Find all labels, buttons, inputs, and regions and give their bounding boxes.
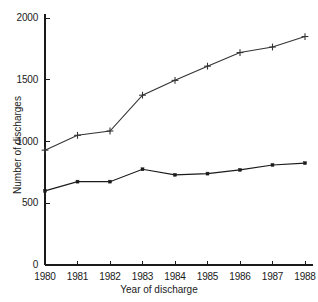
marker-plus <box>204 63 211 70</box>
data-series-lower-series <box>44 162 307 193</box>
marker-square <box>141 168 144 171</box>
series-line-upper-series <box>45 37 305 151</box>
marker-plus <box>302 33 309 40</box>
chart-figure: 0500100015002000 19801981198219831984198… <box>0 0 318 302</box>
y-axis-title: Number of discharges <box>13 80 23 210</box>
x-tick-label: 1983 <box>126 272 160 282</box>
y-tick-label: 2000 <box>2 13 38 23</box>
marker-square <box>76 180 79 183</box>
marker-square <box>206 172 209 175</box>
marker-square <box>44 189 47 192</box>
x-tick-label: 1982 <box>93 272 127 282</box>
marker-plus <box>42 147 49 154</box>
x-tick-label: 1980 <box>28 272 62 282</box>
x-axis-title: Year of discharge <box>0 285 318 295</box>
marker-plus <box>172 77 179 84</box>
marker-square <box>271 163 274 166</box>
marker-plus <box>269 44 276 51</box>
axes <box>45 14 313 265</box>
x-tick-label: 1985 <box>191 272 225 282</box>
marker-plus <box>237 49 244 56</box>
y-tick-label: 0 <box>2 260 38 270</box>
data-series-group <box>42 33 309 192</box>
marker-square <box>109 180 112 183</box>
marker-square <box>239 168 242 171</box>
marker-square <box>174 173 177 176</box>
data-series-upper-series <box>42 33 309 153</box>
marker-plus <box>74 132 81 139</box>
series-line-lower-series <box>45 163 305 191</box>
x-tick-label: 1981 <box>61 272 95 282</box>
x-tick-label: 1987 <box>256 272 290 282</box>
x-tick-label: 1988 <box>288 272 318 282</box>
x-tick-label: 1984 <box>158 272 192 282</box>
x-tick-label: 1986 <box>223 272 257 282</box>
axis-ticks <box>45 18 305 265</box>
marker-square <box>304 162 307 165</box>
plot-area <box>0 0 318 302</box>
